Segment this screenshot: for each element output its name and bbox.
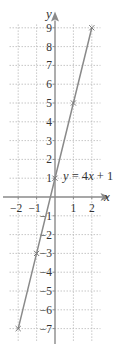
graph-canvas: 987654321−1−2−3−4−5−6−7−2−112 y x y = 4x… <box>0 0 122 349</box>
y-axis-label: y <box>44 6 52 21</box>
y-tick-label: 8 <box>46 41 52 53</box>
equation-label: y = 4x + 1 <box>61 169 113 183</box>
y-tick-label: 6 <box>46 78 52 90</box>
y-tick-label: −4 <box>40 266 52 278</box>
y-tick-label: −6 <box>40 304 52 316</box>
y-tick-label: 5 <box>46 97 52 109</box>
y-tick-label: −3 <box>40 247 52 259</box>
x-tick-label: −2 <box>10 202 22 214</box>
y-tick-label: −7 <box>40 323 52 335</box>
y-tick-label: 7 <box>46 59 52 71</box>
y-tick-label: 9 <box>46 22 52 34</box>
x-tick-label: 1 <box>71 202 77 214</box>
eq-rest: + 1 <box>94 169 114 183</box>
x-tick-label: 2 <box>89 202 95 214</box>
x-axis-label: x <box>103 189 110 204</box>
y-tick-label: −5 <box>40 285 52 297</box>
y-tick-label: 1 <box>46 172 52 184</box>
y-tick-label: 4 <box>46 116 52 128</box>
y-tick-label: 2 <box>46 153 52 165</box>
x-tick-label: −1 <box>28 202 40 214</box>
y-axis-arrow-icon <box>51 11 59 21</box>
line-graph: 987654321−1−2−3−4−5−6−7−2−112 y x y = 4x… <box>0 0 122 349</box>
y-tick-label: 3 <box>46 135 52 147</box>
eq-mid: = 4 <box>69 169 89 183</box>
